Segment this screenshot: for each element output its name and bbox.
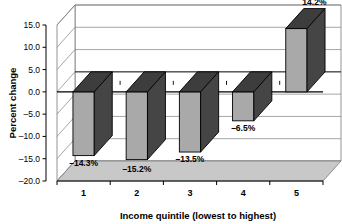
data-label-1: –14.3% — [69, 158, 98, 168]
y-tick-label: 10.0 — [23, 42, 40, 52]
x-tick-label-1: 1 — [81, 188, 86, 198]
y-tick-label: 5.0 — [28, 65, 40, 75]
data-label-5: 14.2% — [302, 0, 327, 7]
x-tick-label-3: 3 — [187, 188, 192, 198]
y-tick-label: –10.0 — [19, 131, 41, 141]
y-axis-title: Percent change — [7, 68, 18, 139]
y-tick-label: –20.0 — [19, 176, 41, 186]
x-tick-label-5: 5 — [294, 188, 299, 198]
y-tick-label: –5.0 — [23, 109, 40, 119]
x-tick-label-4: 4 — [241, 188, 246, 198]
y-tick-label: 15.0 — [23, 20, 40, 30]
x-axis-title: Income quintile (lowest to highest) — [120, 210, 276, 221]
x-tick-label-2: 2 — [134, 188, 139, 198]
chart-canvas: 15.010.05.00.0–5.0–10.0–15.0–20.0 –14.3%… — [0, 0, 342, 224]
data-label-4: –6.5% — [231, 123, 256, 133]
bar-2 — [126, 72, 165, 160]
y-tick-label: –15.0 — [19, 154, 41, 164]
data-label-3: –13.5% — [176, 154, 205, 164]
y-tick-label: 0.0 — [28, 87, 40, 97]
bar-chart: 15.010.05.00.0–5.0–10.0–15.0–20.0 –14.3%… — [0, 0, 342, 224]
data-label-2: –15.2% — [122, 164, 151, 174]
